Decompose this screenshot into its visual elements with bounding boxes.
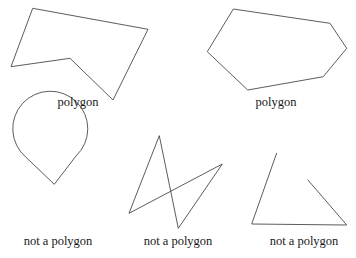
figure-canvas: polygon polygon not a polygon not a poly… [0, 0, 356, 258]
caption-shape-2: polygon [226, 96, 326, 109]
caption-shape-1: polygon [28, 96, 128, 109]
shape-self-intersecting-quadrilateral [129, 136, 222, 229]
shape-layer [0, 0, 356, 258]
caption-shape-5: not a polygon [252, 235, 356, 248]
shape-convex-hexagon [207, 9, 346, 90]
caption-shape-3: not a polygon [6, 235, 110, 248]
shape-open-triangle [252, 153, 347, 225]
shape-concave-heptagon [11, 8, 148, 100]
caption-shape-4: not a polygon [126, 235, 230, 248]
